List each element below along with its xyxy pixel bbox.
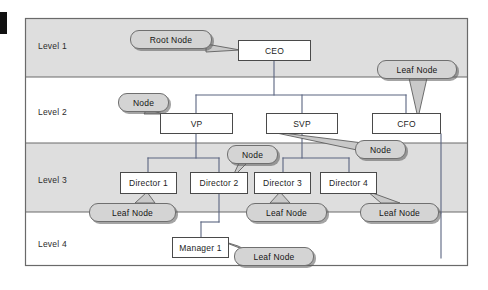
- diagram-label-layer: Level 1 Level 2 Level 3 Level 4 CEO VP S…: [0, 0, 488, 290]
- level-label-4: Level 4: [38, 239, 67, 249]
- node-cfo[interactable]: CFO: [372, 113, 441, 134]
- callout-leaf-node-director-3[interactable]: Leaf Node: [246, 203, 327, 222]
- node-svp[interactable]: SVP: [266, 113, 338, 134]
- level-label-2: Level 2: [38, 107, 67, 117]
- callout-leaf-node-director-4[interactable]: Leaf Node: [360, 203, 439, 222]
- level-label-3: Level 3: [38, 175, 67, 185]
- callout-leaf-node-director-1[interactable]: Leaf Node: [89, 203, 176, 222]
- node-director-2[interactable]: Director 2: [190, 172, 248, 194]
- callout-node-director-2[interactable]: Node: [227, 145, 278, 164]
- node-vp[interactable]: VP: [160, 113, 233, 134]
- callout-node-svp[interactable]: Node: [355, 140, 406, 159]
- level-label-1: Level 1: [38, 41, 67, 51]
- callout-leaf-node-cfo[interactable]: Leaf Node: [377, 60, 457, 79]
- node-director-3[interactable]: Director 3: [254, 172, 311, 194]
- node-director-1[interactable]: Director 1: [120, 172, 177, 194]
- callout-root-node[interactable]: Root Node: [130, 30, 212, 49]
- node-manager-1[interactable]: Manager 1: [172, 237, 229, 258]
- callout-node-vp[interactable]: Node: [118, 93, 169, 112]
- diagram-canvas: Level 1 Level 2 Level 3 Level 4 CEO VP S…: [0, 0, 488, 290]
- node-ceo[interactable]: CEO: [238, 40, 311, 61]
- node-director-4[interactable]: Director 4: [320, 172, 377, 194]
- callout-leaf-node-manager-1[interactable]: Leaf Node: [234, 247, 314, 266]
